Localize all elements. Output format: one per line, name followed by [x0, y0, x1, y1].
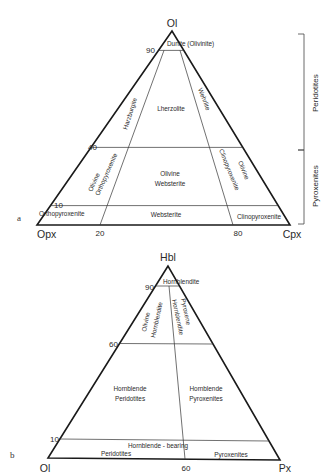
svg-text:Hornblende: Hornblende: [113, 385, 146, 392]
bracket-pyroxenites: [298, 150, 304, 224]
field-hornblende-pyroxenites: Hornblende Pyroxenites: [189, 385, 223, 403]
vertex-cpx: Cpx: [283, 228, 302, 240]
tick-80: 80: [234, 229, 243, 238]
vertex-ol: Ol: [167, 17, 178, 29]
field-bearing-peridotites: Peridotites: [101, 450, 131, 457]
vertex-hbl: Hbl: [160, 251, 176, 263]
field-wehrlite: Wehrlite: [197, 87, 212, 112]
svg-text:Hornblendite: Hornblendite: [149, 301, 163, 338]
svg-text:Pyroxenites: Pyroxenites: [189, 395, 222, 403]
line-hbl-60: [120, 344, 213, 345]
bracket-group: Peridotites Pyroxenites: [298, 34, 320, 224]
label-peridotites: Peridotites: [311, 74, 320, 112]
triangle-a-outline: [37, 31, 290, 225]
triangle-b-outline: [48, 266, 280, 460]
field-orthopyroxenite: Orthopyroxenite: [39, 210, 85, 218]
line-opx-cpx-1-9: [100, 50, 164, 225]
field-bearing-pyroxenites: Pyroxenites: [214, 451, 247, 459]
svg-text:Websterite: Websterite: [155, 180, 186, 187]
line-opx-cpx-9-1: [180, 50, 233, 225]
line-hbl-10: [60, 439, 269, 441]
svg-text:Olivine: Olivine: [140, 311, 151, 332]
ternary-diagram-b: Hbl Ol Px 90 60 10 60 Hornblendite Olivi…: [10, 251, 292, 474]
svg-text:Peridotites: Peridotites: [115, 395, 145, 402]
field-olivine-websterite: Olivine Websterite: [155, 170, 186, 187]
panel-label-b: b: [10, 450, 15, 460]
svg-text:Olivine: Olivine: [237, 160, 251, 181]
field-websterite: Websterite: [151, 211, 182, 218]
field-lherzolite: Lherzolite: [157, 105, 185, 112]
field-hornblendite: Hornblendite: [163, 278, 200, 285]
tick-10: 10: [54, 201, 63, 210]
label-pyroxenites: Pyroxenites: [311, 165, 320, 207]
svg-text:Olivine: Olivine: [160, 170, 180, 177]
tick-10: 10: [50, 435, 59, 444]
ultramafic-classification-figure: Ol Opx Cpx 90 40 10 20 80 Dunite (Olivin…: [0, 0, 333, 474]
tick-60: 60: [109, 340, 118, 349]
field-hornblende-peridotites: Hornblende Peridotites: [113, 385, 146, 402]
tick-90: 90: [145, 283, 154, 292]
field-clinopyroxenite: Clinopyroxenite: [237, 213, 281, 221]
tick-60-base: 60: [182, 464, 191, 473]
tick-90: 90: [146, 46, 155, 55]
panel-label-a: a: [17, 213, 21, 223]
svg-text:Hornblende: Hornblende: [189, 385, 222, 392]
field-olivine-orthopyroxenite: Olivine Orthopyroxenite: [87, 152, 120, 197]
bracket-peridotites: [298, 34, 304, 150]
field-olivine-clinopyroxenite: Clinopyroxenite Olivine: [217, 148, 251, 192]
field-dunite: Dunite (Olivinite): [167, 40, 214, 48]
vertex-opx: Opx: [37, 228, 57, 240]
tick-20: 20: [96, 229, 105, 238]
vertex-px: Px: [279, 462, 292, 474]
field-olivine-hornblendite: Olivine Hornblendite: [140, 301, 163, 338]
tick-40: 40: [88, 143, 97, 152]
ternary-diagram-a: Ol Opx Cpx 90 40 10 20 80 Dunite (Olivin…: [17, 17, 320, 240]
vertex-ol: Ol: [40, 462, 51, 474]
field-hornblende-bearing: Hornblende - bearing: [128, 442, 188, 450]
